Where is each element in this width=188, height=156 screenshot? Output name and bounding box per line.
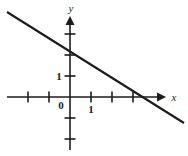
y-axis-arrowhead bbox=[66, 16, 75, 25]
y-axis-unit-label: 1 bbox=[56, 70, 62, 82]
coordinate-graph-figure: 0 1 1 x y bbox=[0, 0, 188, 156]
x-axis-arrowhead bbox=[157, 93, 166, 102]
x-axis-label: x bbox=[171, 91, 177, 103]
y-axis-group bbox=[65, 16, 76, 150]
origin-label: 0 bbox=[58, 99, 64, 111]
graph-canvas: 0 1 1 x y bbox=[0, 0, 188, 156]
y-axis-label: y bbox=[68, 2, 74, 14]
linear-function-line bbox=[7, 12, 184, 123]
x-axis-unit-label: 1 bbox=[88, 103, 94, 115]
plotted-line-group bbox=[7, 12, 184, 123]
